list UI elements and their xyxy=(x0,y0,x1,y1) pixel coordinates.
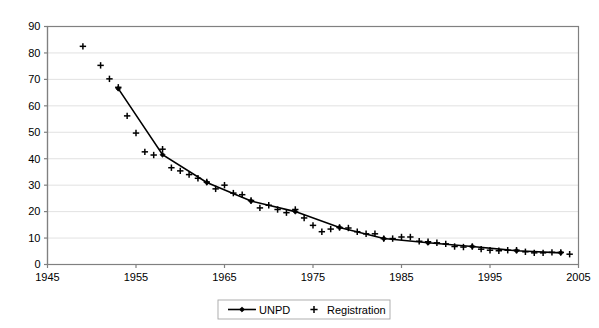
y-tick-label-40: 40 xyxy=(28,153,40,165)
data-point-unpd-1993 xyxy=(470,244,475,249)
x-axis-tick-labels: 1945195519651975198519952005 xyxy=(35,265,590,283)
legend-label-unpd: UNPD xyxy=(259,304,290,316)
x-tick-label-1955: 1955 xyxy=(124,271,148,283)
data-point-registration-1956 xyxy=(142,149,148,155)
y-tick-label-20: 20 xyxy=(28,205,40,217)
data-point-registration-1986 xyxy=(407,234,413,240)
y-axis-tick-labels: 0102030405060708090 xyxy=(28,20,47,270)
y-tick-label-50: 50 xyxy=(28,126,40,138)
y-tick-label-80: 80 xyxy=(28,47,40,59)
data-point-registration-1976 xyxy=(319,229,325,235)
data-point-unpd-2003 xyxy=(558,250,563,255)
x-tick-label-1975: 1975 xyxy=(301,271,325,283)
chart-container: 0102030405060708090 19451955196519751985… xyxy=(0,0,599,328)
data-point-registration-2000 xyxy=(531,250,537,256)
data-point-registration-1960 xyxy=(177,168,183,174)
chart-legend: UNPDRegistration xyxy=(218,300,390,319)
plot-frame xyxy=(48,27,579,265)
data-point-registration-1951 xyxy=(97,62,103,68)
data-point-unpd-1988 xyxy=(425,240,430,245)
data-point-registration-1969 xyxy=(257,205,263,211)
data-point-registration-1954 xyxy=(124,113,130,119)
x-tick-label-2005: 2005 xyxy=(566,271,590,283)
legend-label-registration: Registration xyxy=(327,304,386,316)
data-point-registration-1975 xyxy=(310,222,316,228)
gridlines-group xyxy=(48,27,579,239)
data-point-registration-1957 xyxy=(151,152,157,158)
y-tick-label-30: 30 xyxy=(28,179,40,191)
y-tick-label-90: 90 xyxy=(28,20,40,32)
data-point-registration-1952 xyxy=(106,76,112,82)
data-point-registration-1965 xyxy=(221,182,227,188)
data-point-unpd-1968 xyxy=(248,198,253,203)
data-point-registration-1977 xyxy=(328,226,334,232)
x-tick-label-1965: 1965 xyxy=(212,271,236,283)
y-tick-label-0: 0 xyxy=(34,258,40,270)
series-registration xyxy=(80,43,573,257)
line-chart: 0102030405060708090 19451955196519751985… xyxy=(0,0,599,328)
data-point-unpd-1978 xyxy=(337,225,342,230)
data-point-registration-1985 xyxy=(398,234,404,240)
x-tick-label-1985: 1985 xyxy=(389,271,413,283)
x-tick-label-1945: 1945 xyxy=(35,271,59,283)
data-point-registration-1949 xyxy=(80,43,86,49)
data-point-unpd-1998 xyxy=(514,248,519,253)
data-point-unpd-1983 xyxy=(381,236,386,241)
plot-area-border xyxy=(48,27,579,265)
y-tick-label-70: 70 xyxy=(28,73,40,85)
data-point-registration-2004 xyxy=(566,251,572,257)
x-tick-label-1995: 1995 xyxy=(478,271,502,283)
data-point-registration-1959 xyxy=(168,165,174,171)
data-point-registration-1955 xyxy=(133,130,139,136)
y-tick-label-60: 60 xyxy=(28,100,40,112)
y-tick-label-10: 10 xyxy=(28,232,40,244)
